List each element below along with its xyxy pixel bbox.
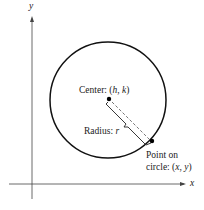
- x-axis-arrow-icon: [180, 182, 186, 186]
- center-point: [107, 97, 111, 101]
- radius-brace: [106, 102, 151, 145]
- radius-label: Radius: r: [84, 126, 119, 137]
- point-on-circle: [150, 139, 154, 143]
- y-axis-arrow-icon: [30, 16, 34, 22]
- center-label: Center: (h, k): [79, 85, 129, 96]
- point-label-line2: circle: (x, y): [146, 162, 192, 173]
- point-label-line1: Point on: [146, 150, 178, 161]
- y-axis-label: y: [29, 1, 33, 12]
- circle-diagram: [0, 0, 204, 210]
- x-axis-label: x: [190, 178, 194, 189]
